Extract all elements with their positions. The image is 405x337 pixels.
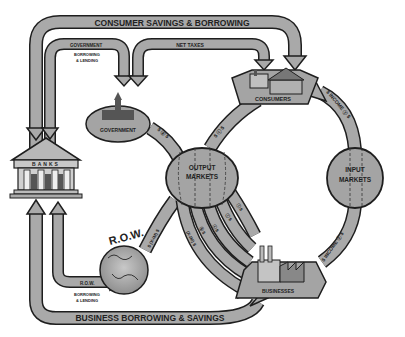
row-borrowing-label-1: R.O.W. <box>80 281 95 286</box>
output-markets-label-2: MARKETS <box>186 173 219 180</box>
row-borrowing-label-2: BORROWING <box>74 292 100 297</box>
consumer-savings-label: CONSUMER SAVINGS & BORROWING <box>94 18 250 28</box>
businesses-label: BUSINESSES <box>262 288 295 294</box>
input-markets-label-1: INPUT <box>345 166 365 173</box>
government-borrowing-label-1: GOVERNMENT <box>70 43 103 48</box>
circular-flow-diagram: CONSUMER SAVINGS & BORROWING GOVERNMENT … <box>0 0 405 337</box>
row-borrowing-label-3: & LENDING <box>76 298 98 303</box>
row-globe <box>100 246 148 294</box>
consumers-label: CONSUMERS <box>255 96 291 102</box>
consumers-to-output-arrow <box>210 100 258 148</box>
input-markets-label-2: MARKETS <box>339 176 372 183</box>
government-label: GOVERNMENT <box>100 127 136 133</box>
net-taxes-label: NET TAXES <box>176 42 204 48</box>
row-label: R.O.W. <box>107 226 144 247</box>
government-borrowing-label-3: & LENDING <box>76 58 98 63</box>
output-markets-label-1: OUTPUT <box>189 164 216 171</box>
business-borrowing-label: BUSINESS BORROWING & SAVINGS <box>75 313 224 323</box>
government-borrowing-label-2: BORROWING <box>74 52 100 57</box>
government-node <box>86 92 150 142</box>
banks-building <box>10 138 82 198</box>
banks-label: BANKS <box>32 161 60 167</box>
